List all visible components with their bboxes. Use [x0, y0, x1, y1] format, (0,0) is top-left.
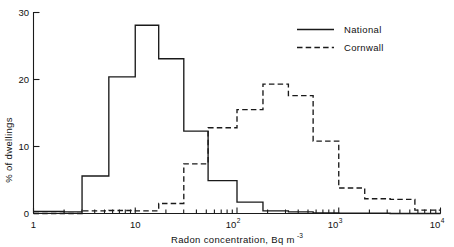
radon-concentration-histogram-figure: 0 10 20 30 % of dwellings — [0, 0, 454, 247]
y-axis-ticks — [34, 13, 40, 214]
x-tick-label-10000-base: 10 — [430, 219, 441, 230]
legend-label-national: National — [344, 24, 382, 35]
legend-label-cornwall: Cornwall — [344, 42, 384, 53]
x-tick-label-1000-base: 10 — [328, 219, 339, 230]
y-tick-label-10: 10 — [18, 141, 29, 152]
y-tick-label-30: 30 — [18, 7, 29, 18]
legend: National Cornwall — [297, 24, 384, 53]
x-tick-label-1000-exponent: 3 — [339, 217, 343, 224]
chart-canvas: 0 10 20 30 % of dwellings — [0, 0, 454, 247]
x-tick-label-10000-group: 10 4 — [430, 217, 445, 230]
y-axis-title: % of dwellings — [3, 117, 14, 183]
x-axis-title-exponent: -3 — [297, 232, 303, 239]
x-tick-label-1000-group: 10 3 — [328, 217, 343, 230]
x-tick-label-10000-exponent: 4 — [441, 217, 445, 224]
x-axis-title-group: Radon concentration, Bq m -3 — [171, 232, 303, 246]
x-tick-label-100-base: 10 — [226, 219, 237, 230]
x-tick-label-100-exponent: 2 — [237, 217, 241, 224]
x-tick-label-1: 1 — [31, 219, 36, 230]
x-tick-label-100-group: 10 2 — [226, 217, 241, 230]
x-axis-title: Radon concentration, Bq m — [171, 234, 295, 245]
x-tick-label-10: 10 — [130, 219, 141, 230]
y-tick-label-20: 20 — [18, 74, 29, 85]
y-tick-label-0: 0 — [24, 208, 29, 219]
